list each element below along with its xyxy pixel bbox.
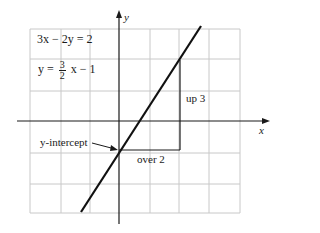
slope-form-rhs: x − 1 — [71, 62, 96, 76]
y-axis-arrow-icon — [116, 10, 122, 18]
slope-fraction: 3 2 — [59, 60, 66, 81]
y-axis-label: y — [124, 12, 129, 23]
rise-label: up 3 — [186, 93, 205, 104]
run-label: over 2 — [137, 154, 165, 165]
slope-form-lhs: y = — [38, 62, 54, 76]
intercept-label: y-intercept — [40, 137, 88, 148]
x-axis-label: x — [259, 125, 264, 136]
slope-intercept-equation: y = 3 2 x − 1 — [38, 60, 96, 81]
slope-denominator: 2 — [59, 71, 66, 81]
standard-form-equation: 3x − 2y = 2 — [37, 33, 93, 45]
intercept-arrow-icon — [110, 145, 118, 151]
